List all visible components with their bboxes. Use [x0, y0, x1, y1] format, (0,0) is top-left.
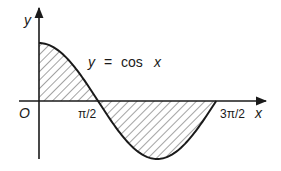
- shaded-region-negative: [98, 101, 216, 159]
- equation-lhs: y: [87, 54, 96, 70]
- equation-equals: =: [104, 54, 112, 70]
- origin-label: O: [19, 105, 30, 121]
- tick-label-3pi-over-2: 3π/2: [220, 107, 245, 121]
- y-axis-label: y: [23, 12, 32, 28]
- equation-label: y = cos x: [87, 54, 162, 70]
- equation-argument: x: [153, 54, 162, 70]
- cosine-area-diagram: y x O π/2 3π/2 y = cos x: [0, 0, 281, 171]
- tick-label-pi-over-2: π/2: [78, 107, 97, 121]
- shaded-region-positive: [39, 43, 98, 101]
- x-axis-label: x: [254, 105, 263, 121]
- equation-function: cos: [121, 54, 143, 70]
